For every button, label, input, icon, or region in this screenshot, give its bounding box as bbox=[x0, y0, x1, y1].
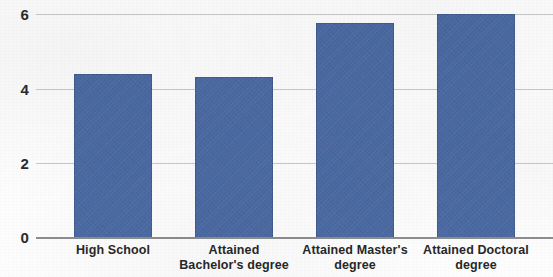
x-axis-category-label: AttainedBachelor's degree bbox=[171, 243, 297, 273]
x-axis-category-label-line: Attained Master's bbox=[292, 243, 418, 258]
x-axis-category-label-line: degree bbox=[413, 258, 539, 273]
x-axis-label-group: High SchoolAttainedBachelor's degreeAtta… bbox=[36, 243, 553, 277]
y-axis-tick-label: 0 bbox=[20, 229, 29, 246]
y-axis-tick-label: 2 bbox=[20, 155, 29, 172]
x-axis-category-label: Attained Doctoraldegree bbox=[413, 243, 539, 273]
x-axis-category-label: Attained Master'sdegree bbox=[292, 243, 418, 273]
x-axis-category-label-line: Attained bbox=[171, 243, 297, 258]
bar[interactable] bbox=[74, 74, 152, 238]
bar[interactable] bbox=[195, 77, 273, 238]
bar[interactable] bbox=[316, 23, 394, 238]
x-axis-category-label-line: High School bbox=[50, 243, 176, 258]
x-axis-category-label: High School bbox=[50, 243, 176, 258]
plot-area: 0246 bbox=[36, 0, 553, 240]
y-axis-tick-label: 4 bbox=[20, 80, 29, 97]
x-axis-category-label-line: degree bbox=[292, 258, 418, 273]
x-axis-category-label-line: Bachelor's degree bbox=[171, 258, 297, 273]
bar-chart-figure: 0246 High SchoolAttainedBachelor's degre… bbox=[0, 0, 553, 277]
bar[interactable] bbox=[437, 14, 515, 238]
y-axis-tick-label: 6 bbox=[20, 6, 29, 23]
x-axis-line: 0 bbox=[36, 237, 553, 239]
x-axis-category-label-line: Attained Doctoral bbox=[413, 243, 539, 258]
